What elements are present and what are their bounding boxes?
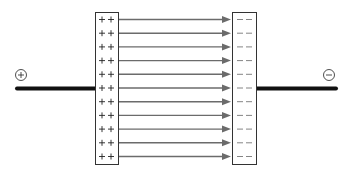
- field-line-arrow: [119, 153, 231, 160]
- field-line-arrow: [119, 85, 231, 92]
- positive-plate: [96, 13, 119, 165]
- negative-terminal-icon: [324, 70, 335, 81]
- field-line-arrow: [119, 16, 231, 23]
- field-line-arrow: [119, 57, 231, 64]
- negative-plate: [233, 13, 257, 165]
- electric-field-lines: [119, 16, 231, 160]
- field-line-arrow: [119, 112, 231, 119]
- field-line-arrow: [119, 30, 231, 37]
- field-line-arrow: [119, 71, 231, 78]
- field-line-arrow: [119, 139, 231, 146]
- positive-terminal-icon: [16, 70, 27, 81]
- field-line-arrow: [119, 126, 231, 133]
- field-line-arrow: [119, 98, 231, 105]
- capacitor-diagram: [0, 0, 346, 174]
- field-line-arrow: [119, 43, 231, 50]
